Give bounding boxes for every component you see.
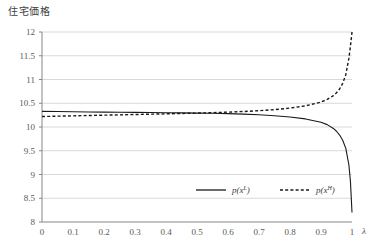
y-tick-label: 10.5 [19,98,35,108]
x-axis-ticks: 00.10.20.30.40.50.60.70.80.91 [40,227,355,237]
y-tick-label: 10 [26,122,36,132]
x-axis-title: λ [361,226,366,236]
gridlines [42,32,352,198]
series-line-high [42,32,352,117]
x-tick-label: 0.7 [253,227,265,237]
x-tick-label: 0 [40,227,45,237]
legend-label-low: p(xL) [231,185,250,195]
y-axis-ticks: 88.599.51010.51111.512 [19,27,42,227]
x-tick-label: 0.6 [222,227,234,237]
x-tick-label: 0.8 [284,227,296,237]
y-tick-label: 9 [31,170,36,180]
x-tick-label: 0.9 [315,227,327,237]
y-tick-label: 9.5 [24,146,36,156]
x-tick-label: 0.5 [191,227,203,237]
y-tick-label: 8.5 [24,193,36,203]
legend-label-high: p(xH) [315,185,335,195]
y-tick-label: 11 [26,75,35,85]
series-curves [42,32,352,213]
chart-legend: p(xL)p(xH) [196,185,335,195]
chart-plot: 88.599.51010.51111.512 00.10.20.30.40.50… [0,0,381,250]
y-tick-label: 12 [26,27,35,37]
x-tick-label: 0.1 [67,227,78,237]
x-tick-label: 0.4 [160,227,172,237]
x-axis-label: λ [361,226,366,236]
x-tick-label: 1 [350,227,355,237]
x-tick-label: 0.2 [98,227,109,237]
chart-container: 住宅価格 88.599.51010.51111.512 00.10.20.30.… [0,0,381,250]
y-tick-label: 8 [31,217,36,227]
y-tick-label: 11.5 [20,51,36,61]
x-tick-label: 0.3 [129,227,141,237]
